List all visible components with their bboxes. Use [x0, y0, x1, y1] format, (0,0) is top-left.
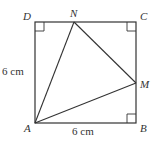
square-diagram: D N C M A B 6 cm 6 cm — [0, 0, 153, 147]
right-angle-d-icon — [35, 22, 44, 31]
label-a: A — [23, 122, 31, 134]
dimension-left: 6 cm — [2, 65, 24, 77]
label-d: D — [22, 10, 31, 22]
label-n: N — [69, 7, 78, 19]
label-m: M — [139, 78, 150, 90]
right-angle-c-icon — [127, 22, 136, 31]
right-angle-b-icon — [127, 114, 136, 123]
dimension-bottom: 6 cm — [72, 125, 94, 137]
square-abcd — [35, 22, 136, 123]
segment-am — [35, 83, 136, 123]
label-c: C — [140, 10, 148, 22]
segment-an — [35, 22, 74, 123]
label-b: B — [140, 122, 147, 134]
